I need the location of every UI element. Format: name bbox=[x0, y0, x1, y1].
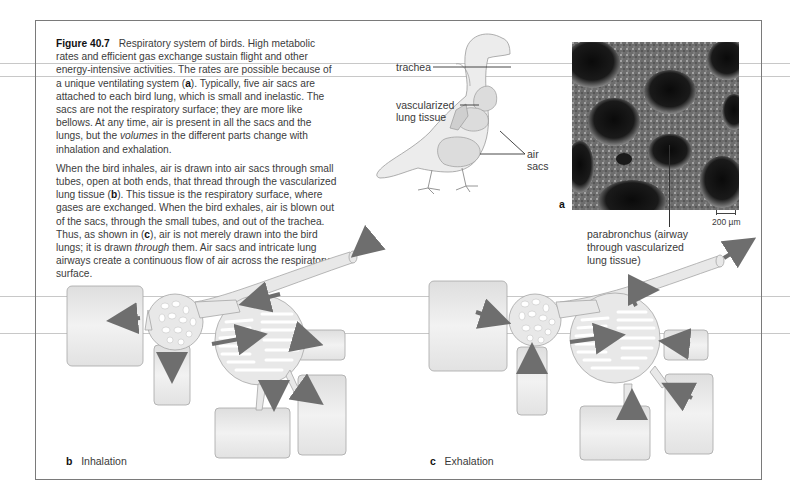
panel-b-label: b Inhalation bbox=[66, 455, 127, 468]
scale-bar-label: 200 µm bbox=[712, 216, 741, 229]
panel-letter-a: a bbox=[559, 198, 565, 211]
scale-bar-tick bbox=[735, 210, 736, 215]
inhalation-label: Inhalation bbox=[81, 455, 127, 467]
sacs-label: sacs bbox=[527, 160, 549, 173]
parabronchus-label-2: through vascularized bbox=[587, 241, 684, 254]
parabronchus-label-3: lung tissue) bbox=[587, 254, 641, 267]
parabronchus-pointer bbox=[669, 145, 670, 227]
parabronchus-label-1: parabronchus (airway bbox=[587, 228, 688, 241]
figure-number: Figure 40.7 bbox=[56, 38, 110, 49]
caption-paragraph-1: Figure 40.7 Respiratory system of birds.… bbox=[56, 37, 338, 156]
scale-bar bbox=[716, 213, 736, 214]
caption-emphasis: volumes bbox=[120, 130, 158, 141]
scale-bar-tick bbox=[716, 210, 717, 215]
exhalation-label: Exhalation bbox=[445, 455, 494, 467]
figure-caption: Figure 40.7 Respiratory system of birds.… bbox=[56, 37, 338, 287]
air-label: air bbox=[527, 148, 539, 161]
micrograph-texture bbox=[572, 42, 739, 210]
trachea-label: trachea bbox=[396, 61, 431, 74]
panel-c-label: c Exhalation bbox=[430, 455, 494, 468]
caption-paragraph-2: When the bird inhales, air is drawn into… bbox=[56, 162, 338, 281]
vascularized-label: vascularized bbox=[396, 99, 454, 112]
parabronchus-micrograph bbox=[572, 42, 739, 210]
lung-tissue-label: lung tissue bbox=[396, 111, 446, 124]
figure-title: Respiratory system of birds. bbox=[119, 38, 245, 49]
panel-letter-b: b bbox=[66, 455, 72, 467]
caption-emphasis: through bbox=[135, 242, 170, 253]
panel-letter-c: c bbox=[430, 455, 436, 467]
